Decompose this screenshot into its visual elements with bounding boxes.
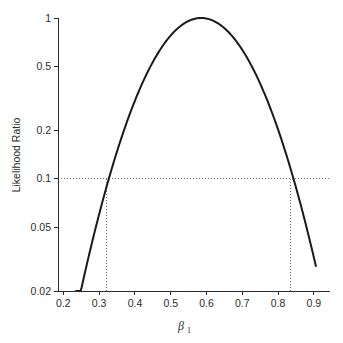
x-tick-label: 0.5: [163, 297, 178, 309]
x-axis-title-base: β: [177, 319, 184, 333]
x-tick-label: 0.2: [56, 297, 71, 309]
y-tick-label: 0.2: [36, 124, 51, 136]
x-tick-label: 0.6: [199, 297, 214, 309]
likelihood-ratio-curve: [76, 18, 316, 291]
reference-lines-group: [58, 179, 330, 291]
axes-group: [58, 18, 330, 291]
x-tick-label: 0.8: [271, 297, 286, 309]
y-tick-label: 0.05: [31, 221, 52, 233]
likelihood-ratio-chart: 0.20.30.40.50.60.70.80.9 10.50.20.10.050…: [0, 0, 343, 343]
x-tick-label: 0.9: [307, 297, 322, 309]
chart-canvas: 0.20.30.40.50.60.70.80.9 10.50.20.10.050…: [0, 0, 343, 343]
x-axis-title-subscript: 1: [187, 326, 191, 335]
curve-group: [76, 18, 316, 291]
x-tick-labels-group: 0.20.30.40.50.60.70.80.9: [56, 297, 321, 309]
y-tick-label: 0.1: [36, 172, 51, 184]
x-axis-title: β 1: [177, 319, 191, 335]
x-tick-label: 0.7: [235, 297, 250, 309]
x-tick-label: 0.4: [128, 297, 143, 309]
y-tick-label: 0.02: [31, 285, 52, 297]
y-axis-title: Likelihood Ratio: [10, 117, 22, 192]
x-tick-label: 0.3: [92, 297, 107, 309]
y-tick-label: 1: [45, 12, 51, 24]
tick-marks-group: [54, 18, 314, 295]
y-tick-label: 0.5: [36, 60, 51, 72]
y-tick-labels-group: 10.50.20.10.050.02: [31, 12, 52, 297]
